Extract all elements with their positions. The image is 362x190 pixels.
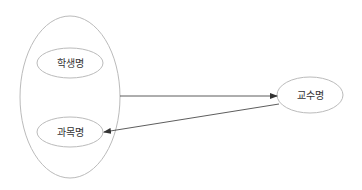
subject-name-node: 과목명 [37,117,103,147]
professor-name-label: 교수명 [297,90,324,101]
edge-professor-to-subject [104,104,279,132]
diagram-canvas: 학생명 과목명 교수명 [0,0,362,190]
student-name-label: 학생명 [57,58,84,69]
student-name-node: 학생명 [37,48,103,78]
professor-name-node: 교수명 [277,77,343,113]
group-node [20,16,120,178]
subject-name-label: 과목명 [57,127,84,138]
